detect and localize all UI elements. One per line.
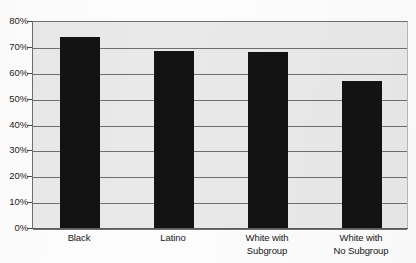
y-axis-tick-mark <box>27 176 32 177</box>
y-axis-tick-label: 80% <box>0 16 28 26</box>
x-axis-category-label-line: Subgroup <box>220 245 314 258</box>
y-axis-tick-mark <box>27 202 32 203</box>
y-axis-tick-label: 0% <box>0 223 28 233</box>
y-axis-tick-label: 20% <box>0 171 28 181</box>
y-axis-tick-label: 10% <box>0 197 28 207</box>
bar[interactable] <box>60 37 100 228</box>
gridline <box>33 229 407 230</box>
y-axis-tick-mark <box>27 228 32 229</box>
bar[interactable] <box>248 52 288 228</box>
bar[interactable] <box>154 51 194 228</box>
y-axis-tick-label: 50% <box>0 94 28 104</box>
x-axis-category-label-line: No Subgroup <box>314 245 408 258</box>
y-axis-tick-mark <box>27 21 32 22</box>
x-axis-line <box>27 228 408 229</box>
x-axis-category-label: White withNo Subgroup <box>314 232 408 257</box>
bar-series <box>33 22 407 228</box>
y-axis-tick-mark <box>27 73 32 74</box>
y-axis-tick-mark <box>27 125 32 126</box>
plot-area <box>32 21 408 228</box>
y-axis-tick-mark <box>27 150 32 151</box>
y-axis-tick-label: 30% <box>0 145 28 155</box>
bar-slot <box>127 22 221 228</box>
y-axis-tick-label: 40% <box>0 120 28 130</box>
bar-slot <box>33 22 127 228</box>
x-axis-category-label: Black <box>32 232 126 245</box>
y-axis-tick-mark <box>27 47 32 48</box>
x-axis-category-label: White withSubgroup <box>220 232 314 257</box>
y-axis-tick-label: 60% <box>0 68 28 78</box>
x-axis-category-label: Latino <box>126 232 220 245</box>
bar[interactable] <box>342 81 382 228</box>
y-axis-tick-mark <box>27 99 32 100</box>
x-axis-category-label-line: Black <box>32 232 126 245</box>
bar-slot <box>221 22 315 228</box>
x-axis-labels: BlackLatinoWhite withSubgroupWhite withN… <box>32 232 408 263</box>
x-axis-category-label-line: Latino <box>126 232 220 245</box>
y-axis-labels: 0%10%20%30%40%50%60%70%80% <box>0 0 30 263</box>
bar-chart: 0%10%20%30%40%50%60%70%80% BlackLatinoWh… <box>0 0 416 263</box>
x-axis-category-label-line: White with <box>220 232 314 245</box>
y-axis-tick-label: 70% <box>0 42 28 52</box>
bar-slot <box>315 22 409 228</box>
x-axis-category-label-line: White with <box>314 232 408 245</box>
